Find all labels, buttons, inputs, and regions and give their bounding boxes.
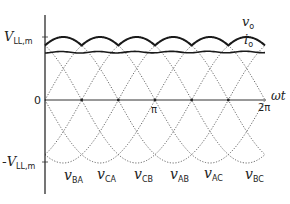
rectifier-waveform-chart: VLL,m 0 -VLL,m π 2π ωt vo io vBA vCA vCB… — [0, 0, 290, 204]
pi-label: π — [151, 104, 157, 115]
label-vac: vAC — [204, 165, 223, 183]
io-current-line — [45, 51, 265, 53]
x-axis-label: ωt — [271, 89, 286, 103]
x-tick-dot — [190, 99, 193, 102]
x-tick-dot — [80, 99, 83, 102]
x-tick-dot — [154, 99, 157, 102]
label-vbc: vBC — [245, 166, 264, 184]
label-vba: vBA — [64, 167, 83, 185]
x-tick-dot — [117, 99, 120, 102]
zero-label: 0 — [34, 94, 41, 107]
x-tick-dot — [227, 99, 230, 102]
two-pi-label: 2π — [258, 102, 270, 113]
label-vab: vAB — [170, 166, 189, 184]
vo-label: vo — [242, 14, 254, 31]
label-vcb: vCB — [134, 166, 153, 184]
vo-envelope-line — [45, 37, 265, 45]
label-vca: vCA — [97, 166, 117, 184]
y-max-label: VLL,m — [4, 29, 33, 46]
y-min-label: -VLL,m — [2, 154, 36, 171]
io-label: io — [244, 32, 253, 49]
